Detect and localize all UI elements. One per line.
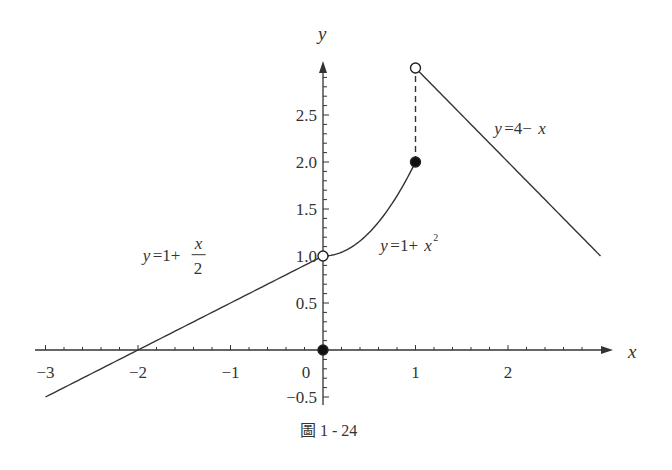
curve-y-4-x: [416, 68, 601, 256]
x-tick-label: 0: [302, 363, 311, 382]
x-axis-label: x: [627, 341, 637, 362]
annotation-denominator: 2: [194, 259, 203, 278]
annotation-expr: =1+: [153, 246, 181, 265]
y-axis-label: y: [316, 23, 327, 44]
y-tick-label: 2.5: [296, 106, 317, 125]
open-point-marker: [318, 251, 328, 261]
x-tick-label: −3: [36, 363, 54, 382]
filled-point-marker: [411, 157, 421, 167]
figure-caption: 圖 1 - 24: [300, 422, 357, 439]
y-tick-label: 1.0: [296, 247, 317, 266]
annotation-y-1-plus-x-over-2: y =1+ x 2: [141, 234, 206, 278]
annotation-expr: =1+: [390, 236, 418, 255]
annotation-exponent: 2: [433, 232, 438, 243]
annotation-var: x: [423, 236, 432, 255]
annotation-y-1-plus-x-squared: y =1+ x 2: [378, 232, 438, 255]
open-point-marker: [411, 63, 421, 73]
annotation-y-4-minus-x: y =4− x: [492, 119, 546, 138]
x-tick-label: 2: [504, 363, 513, 382]
filled-point-marker: [318, 345, 328, 355]
y-tick-label: 2.0: [296, 153, 317, 172]
y-axis-arrow-icon: [319, 61, 327, 73]
x-axis-arrow-icon: [601, 346, 613, 354]
y-tick-label: 0.5: [296, 294, 317, 313]
chart: −3−2−1012−0.50.51.01.52.02.5 x y y =1+ x…: [0, 0, 672, 470]
markers: [318, 63, 421, 355]
y-tick-label: −0.5: [286, 388, 317, 407]
annotation-expr: =4−: [504, 119, 532, 138]
annotation-var: x: [537, 119, 546, 138]
x-tick-label: −2: [129, 363, 147, 382]
annotation-numerator: x: [194, 234, 203, 253]
x-tick-label: 1: [411, 363, 420, 382]
x-tick-label: −1: [221, 363, 239, 382]
annotation-var: y: [378, 236, 388, 255]
curve-y-1-x-2: [46, 256, 324, 397]
annotation-var: y: [141, 246, 151, 265]
annotation-var: y: [492, 119, 502, 138]
y-tick-label: 1.5: [296, 200, 317, 219]
